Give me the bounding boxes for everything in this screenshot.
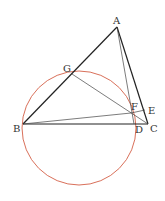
label-e: E [148, 105, 155, 116]
segment-bf [23, 113, 131, 124]
label-c: C [150, 123, 158, 134]
label-a: A [112, 15, 121, 26]
label-f: F [131, 101, 138, 112]
label-g: G [63, 63, 71, 74]
label-d: D [135, 124, 143, 135]
circle [22, 71, 136, 185]
segment-gc [72, 74, 148, 124]
geometry-diagram: A B C D E F G [0, 0, 165, 201]
label-b: B [13, 123, 20, 134]
segment-ab [23, 27, 117, 124]
